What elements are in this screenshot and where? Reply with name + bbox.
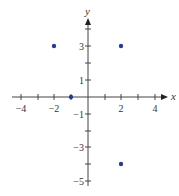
data-point — [119, 44, 123, 48]
y-axis-arrow-icon — [85, 18, 91, 25]
data-point — [119, 162, 123, 166]
x-tick-label: −4 — [16, 103, 27, 114]
y-axis-label: y — [84, 5, 90, 17]
x-tick-label: 4 — [153, 103, 158, 114]
y-tick-label: −5 — [73, 176, 84, 187]
x-axis-arrow-icon — [161, 94, 168, 100]
x-tick-label: −2 — [49, 103, 60, 114]
x-axis-label: x — [170, 90, 176, 102]
x-tick-label: 2 — [119, 103, 124, 114]
scatter-plot: −4 −2 2 4 3 1 −1 −3 −5 x y — [0, 0, 179, 196]
data-point — [69, 95, 73, 99]
data-point — [52, 44, 56, 48]
y-tick-label: 1 — [79, 75, 84, 86]
y-tick-label: −3 — [73, 142, 84, 153]
y-tick-label: 3 — [79, 41, 84, 52]
y-tick-label: −1 — [73, 109, 84, 120]
